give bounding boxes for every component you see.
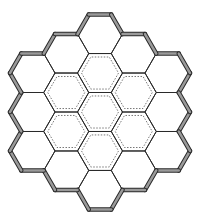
outer-wall-fill	[179, 93, 190, 112]
cell-edge	[44, 54, 55, 73]
outer-wall-fill	[179, 151, 190, 170]
cell-dotted-outline	[82, 96, 119, 128]
outer-wall-fill	[78, 190, 89, 209]
outer-wall	[10, 15, 190, 210]
outer-wall-fill	[111, 15, 122, 34]
cell-dotted-outline	[82, 57, 119, 89]
cell-edge	[145, 151, 156, 170]
outer-wall-fill	[10, 93, 21, 112]
cell-edge	[78, 170, 89, 189]
thin-cell-edges	[21, 34, 179, 190]
cell-dotted-outline	[48, 115, 85, 147]
cell-edge	[78, 34, 89, 53]
outer-wall-fill	[179, 131, 190, 150]
outer-wall-fill	[179, 54, 190, 73]
cell-edge	[111, 34, 122, 53]
outer-wall-fill	[179, 73, 190, 92]
cell-dotted-outline	[115, 76, 152, 108]
cell-dotted-outline	[48, 76, 85, 108]
outer-wall-fill	[44, 170, 55, 189]
outer-wall-fill	[10, 131, 21, 150]
cell-dotted-outline	[82, 135, 119, 167]
outer-wall-fill	[10, 112, 21, 131]
outer-wall-fill	[78, 15, 89, 34]
cell-edge	[44, 151, 55, 170]
outer-wall-fill	[179, 112, 190, 131]
outer-wall-fill	[10, 54, 21, 73]
outer-wall-fill	[111, 190, 122, 209]
outer-wall-fill	[44, 34, 55, 53]
outer-wall-fill	[10, 73, 21, 92]
outer-wall-fill	[145, 170, 156, 189]
cell-edge	[111, 170, 122, 189]
honeycomb-diagram	[0, 0, 199, 222]
honeycomb-svg	[0, 0, 199, 222]
outer-wall-fill	[145, 34, 156, 53]
cell-edge	[145, 54, 156, 73]
outer-wall-fill	[10, 151, 21, 170]
cell-dotted-outline	[115, 115, 152, 147]
